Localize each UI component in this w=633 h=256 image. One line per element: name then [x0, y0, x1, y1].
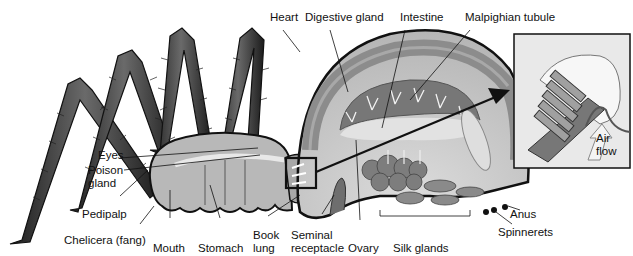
abdomen — [298, 30, 529, 218]
label-heart: Heart — [270, 11, 298, 24]
label-air-flow-1: Air — [596, 132, 610, 145]
label-spinnerets: Spinnerets — [498, 226, 553, 239]
label-intestine: Intestine — [400, 11, 443, 24]
label-anus: Anus — [510, 208, 536, 221]
label-poison-gland-2: gland — [88, 177, 116, 190]
label-eyes: Eyes — [98, 149, 124, 162]
spider-anatomy-diagram: Heart Digestive gland Intestine Malpighi… — [0, 0, 633, 256]
label-digestive-gland: Digestive gland — [305, 11, 384, 24]
label-chelicera: Chelicera (fang) — [64, 234, 146, 247]
label-seminal-receptacle-1: Seminal — [291, 229, 333, 242]
label-pedipalp: Pedipalp — [82, 208, 127, 221]
label-ovary: Ovary — [348, 242, 379, 255]
label-stomach: Stomach — [198, 242, 243, 255]
label-poison-gland-1: Poison — [88, 164, 123, 177]
label-silk-glands: Silk glands — [393, 242, 449, 255]
label-mouth: Mouth — [153, 242, 185, 255]
label-book-lung-1: Book — [253, 229, 279, 242]
label-air-flow-2: flow — [596, 145, 616, 158]
label-malpighian-tubule: Malpighian tubule — [465, 11, 555, 24]
label-seminal-receptacle-2: receptacle — [291, 242, 344, 255]
label-book-lung-2: lung — [253, 242, 275, 255]
cephalothorax — [150, 133, 292, 212]
